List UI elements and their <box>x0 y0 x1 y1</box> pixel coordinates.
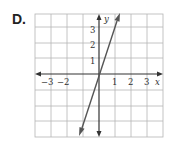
x-axis-label: x <box>155 77 160 87</box>
y-axis-up-arrow-icon <box>97 14 102 20</box>
x-tick-label: 1 <box>112 77 117 87</box>
x-tick-label: 3 <box>144 77 149 87</box>
x-tick-label: −3 <box>41 77 54 87</box>
y-tick-label: 1 <box>90 56 95 66</box>
line-bottom-arrow-icon <box>79 127 85 136</box>
y-axis-label: y <box>103 14 109 24</box>
y-axis-down-arrow-icon <box>97 131 102 137</box>
coordinate-graph: −3 −2 1 2 3 x 1 2 3 y <box>0 0 173 146</box>
x-tick-label: 2 <box>128 77 133 87</box>
y-tick-label: 2 <box>90 40 95 50</box>
y-tick-label: 3 <box>90 25 95 35</box>
x-axis-right-arrow-icon <box>157 72 163 77</box>
x-tick-label: −2 <box>57 77 70 87</box>
x-axis-left-arrow-icon <box>35 72 41 77</box>
